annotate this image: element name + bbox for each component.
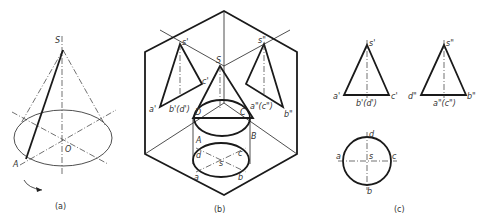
panel-a-cone-3d: S O A (a) <box>12 36 116 211</box>
side-view-triangle <box>246 44 283 107</box>
label-s: s <box>219 159 223 168</box>
label-C: C <box>240 108 246 117</box>
label-a: a <box>194 173 199 182</box>
label-c: c <box>238 149 243 158</box>
cone-projection-diagram: S O A (a) s' c' a' b'(d') s" a"(c") b" S… <box>0 0 487 222</box>
panel-b-three-plane-projection: s' c' a' b'(d') s" a"(c") b" S D C A B d… <box>145 11 297 214</box>
label-b-c: b <box>367 187 372 196</box>
label-S-center: S <box>216 56 221 65</box>
label-d-dprime-c: d" <box>408 92 417 101</box>
caption-b: (b) <box>214 205 225 214</box>
label-b: b <box>238 173 243 182</box>
rotation-arrow-icon <box>24 180 42 190</box>
label-b-dprime: b" <box>284 110 293 119</box>
front-view-triangle-c <box>344 45 389 95</box>
label-bd-prime-c: b'(d') <box>356 99 377 108</box>
label-D: D <box>195 108 201 117</box>
label-c-prime-c: c' <box>391 92 398 101</box>
label-O: O <box>65 145 71 154</box>
caption-a: (a) <box>55 202 66 211</box>
front-view-triangle <box>160 44 202 107</box>
label-S: S <box>55 36 60 45</box>
label-ac-dprime: a"(c") <box>250 102 273 111</box>
label-ac-dprime-c: a"(c") <box>433 99 456 108</box>
label-d: d <box>196 151 202 160</box>
label-a-prime-c: a' <box>333 92 340 101</box>
label-s-dprime-c: s" <box>446 39 454 48</box>
label-bd-prime: b'(d') <box>169 105 190 114</box>
label-a-c: a <box>336 152 341 161</box>
label-A: A <box>12 160 18 169</box>
label-A: A <box>195 136 201 145</box>
cone-generator-right <box>63 50 105 125</box>
label-s-prime-c: s' <box>369 39 375 48</box>
label-c-prime: c' <box>202 77 209 86</box>
label-B: B <box>251 132 257 141</box>
cone-base-ellipse <box>14 110 112 166</box>
label-c-c: c <box>392 152 397 161</box>
caption-c: (c) <box>394 205 405 214</box>
label-b-dprime-c: b" <box>467 92 476 101</box>
label-s-dprime: s" <box>258 36 266 45</box>
label-a-prime: a' <box>149 105 156 114</box>
generator-line-SA <box>26 50 63 159</box>
side-view-triangle-c <box>421 45 466 95</box>
panel-c-orthographic-views: s' a' b'(d') c' s" d" a"(c") b" d a s c … <box>333 39 476 214</box>
label-s-prime: s' <box>182 38 188 47</box>
axis-left-upper <box>160 30 224 66</box>
label-s-c: s <box>369 152 373 161</box>
